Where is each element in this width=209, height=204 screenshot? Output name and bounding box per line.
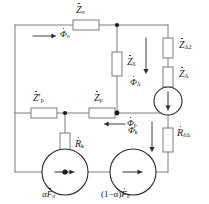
label-phi-k: Φk xyxy=(128,126,138,136)
flux-arrow-phi-p-head xyxy=(104,121,109,126)
label-source-middle-subscript: σ xyxy=(127,193,130,199)
label-z-p-prime-subscript: p xyxy=(41,96,44,103)
label-r-k: Rk xyxy=(75,139,84,149)
label-z-delta: ZΔ xyxy=(179,69,189,79)
schematic-canvas xyxy=(0,0,209,204)
junction-dot-mid-left xyxy=(63,111,67,115)
component-box-z-p-prime xyxy=(31,108,57,118)
label-z-sigma-top-subscript: σ xyxy=(82,8,85,15)
label-z-p-prime: Z′p xyxy=(33,93,44,103)
label-source-left-subscript: σ xyxy=(52,193,55,199)
label-z-delta-subscript: Δ xyxy=(185,72,189,79)
label-z-delta-series: Zδ xyxy=(127,57,135,67)
label-z-p-subscript: p xyxy=(100,96,103,103)
junction-dot-mid-center xyxy=(115,111,120,116)
component-box-z-delta xyxy=(163,67,173,87)
label-phi-delta: ΦΔ xyxy=(130,78,140,88)
component-box-r-delta-delta xyxy=(163,128,173,152)
schematic-figure: Zσ Φσ Zδ ZΔ2 ZΔ ΦΔ Z′p Zp Φp Rk RδΔ Φk xyxy=(0,0,209,204)
flux-arrow-phi-k-head xyxy=(149,147,154,152)
flux-arrow-phi-delta-head xyxy=(143,69,148,74)
label-z-delta-series-subscript: δ xyxy=(133,60,136,67)
component-box-z-p xyxy=(89,108,115,118)
label-z-sigma-top: Zσ xyxy=(76,5,85,15)
label-source-left: αFσ xyxy=(42,190,55,200)
label-z-delta2: ZΔ2 xyxy=(179,40,192,50)
flux-arrow-phi-sigma-head xyxy=(51,33,56,38)
label-source-middle: (1−α)Fσ xyxy=(101,190,130,200)
label-phi-k-subscript: k xyxy=(135,129,138,135)
component-box-z-sigma-top xyxy=(73,20,99,30)
junction-dot-bottom-left xyxy=(62,169,67,174)
label-phi-sigma: Φσ xyxy=(60,30,70,40)
label-phi-sigma-subscript: σ xyxy=(67,33,70,39)
label-z-p: Zp xyxy=(94,93,103,103)
component-box-z-delta-series xyxy=(112,52,122,76)
label-source-middle-prefix: (1−α) xyxy=(101,189,121,199)
label-r-delta-delta-subscript: δΔ xyxy=(183,131,190,138)
label-phi-delta-subscript: Δ xyxy=(137,81,141,87)
component-box-z-delta2 xyxy=(163,38,173,58)
label-z-delta2-subscript: Δ2 xyxy=(185,43,192,50)
junction-dot-top-center xyxy=(115,23,119,27)
label-r-k-subscript: k xyxy=(81,142,84,149)
label-r-delta-delta: RδΔ xyxy=(177,128,190,138)
